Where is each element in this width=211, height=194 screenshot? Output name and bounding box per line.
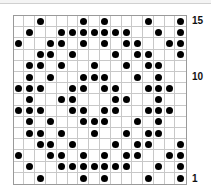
grid-cell-r15-c8[interactable] — [89, 16, 100, 27]
grid-cell-r1-c10[interactable] — [111, 173, 122, 184]
grid-cell-r14-c15[interactable] — [165, 27, 176, 38]
grid-cell-r14-c13[interactable] — [143, 27, 154, 38]
grid-cell-r6-c14[interactable] — [154, 117, 165, 128]
grid-cell-r14-c6[interactable] — [68, 27, 79, 38]
grid-cell-r8-c2[interactable] — [24, 94, 35, 105]
grid-cell-r13-c3[interactable] — [35, 38, 46, 49]
grid-cell-r5-c12[interactable] — [132, 128, 143, 139]
grid-cell-r2-c14[interactable] — [154, 162, 165, 173]
grid-cell-r2-c12[interactable] — [132, 162, 143, 173]
grid-cell-r13-c12[interactable] — [132, 38, 143, 49]
grid-cell-r9-c16[interactable] — [175, 83, 186, 94]
grid-cell-r1-c14[interactable] — [154, 173, 165, 184]
grid-cell-r1-c5[interactable] — [57, 173, 68, 184]
grid-cell-r13-c5[interactable] — [57, 38, 68, 49]
grid-cell-r8-c15[interactable] — [165, 94, 176, 105]
grid-cell-r10-c9[interactable] — [100, 72, 111, 83]
grid-cell-r11-c9[interactable] — [100, 61, 111, 72]
grid-cell-r5-c5[interactable] — [57, 128, 68, 139]
grid-cell-r4-c13[interactable] — [143, 139, 154, 150]
grid-cell-r9-c6[interactable] — [68, 83, 79, 94]
grid-cell-r10-c6[interactable] — [68, 72, 79, 83]
grid-cell-r7-c14[interactable] — [154, 106, 165, 117]
grid-cell-r1-c4[interactable] — [46, 173, 57, 184]
grid-cell-r9-c7[interactable] — [78, 83, 89, 94]
grid-cell-r5-c1[interactable] — [14, 128, 25, 139]
grid-cell-r13-c1[interactable] — [14, 38, 25, 49]
grid-cell-r10-c14[interactable] — [154, 72, 165, 83]
grid-cell-r1-c1[interactable] — [14, 173, 25, 184]
grid-cell-r11-c4[interactable] — [46, 61, 57, 72]
grid-cell-r6-c10[interactable] — [111, 117, 122, 128]
grid-cell-r3-c7[interactable] — [78, 150, 89, 161]
grid-cell-r15-c1[interactable] — [14, 16, 25, 27]
grid-cell-r6-c6[interactable] — [68, 117, 79, 128]
grid-cell-r7-c10[interactable] — [111, 106, 122, 117]
grid-cell-r13-c11[interactable] — [122, 38, 133, 49]
grid-cell-r2-c7[interactable] — [78, 162, 89, 173]
grid-cell-r4-c2[interactable] — [24, 139, 35, 150]
grid-cell-r2-c16[interactable] — [175, 162, 186, 173]
grid-cell-r14-c7[interactable] — [78, 27, 89, 38]
grid-cell-r10-c13[interactable] — [143, 72, 154, 83]
grid-cell-r15-c2[interactable] — [24, 16, 35, 27]
grid-cell-r8-c10[interactable] — [111, 94, 122, 105]
grid-cell-r3-c2[interactable] — [24, 150, 35, 161]
grid-cell-r8-c4[interactable] — [46, 94, 57, 105]
grid-cell-r15-c3[interactable] — [35, 16, 46, 27]
grid-cell-r15-c10[interactable] — [111, 16, 122, 27]
grid-cell-r13-c14[interactable] — [154, 38, 165, 49]
grid-cell-r9-c4[interactable] — [46, 83, 57, 94]
grid-cell-r15-c7[interactable] — [78, 16, 89, 27]
grid-cell-r15-c5[interactable] — [57, 16, 68, 27]
grid-cell-r13-c15[interactable] — [165, 38, 176, 49]
grid-cell-r7-c1[interactable] — [14, 106, 25, 117]
grid-cell-r7-c8[interactable] — [89, 106, 100, 117]
grid-cell-r12-c7[interactable] — [78, 50, 89, 61]
grid-cell-r15-c15[interactable] — [165, 16, 176, 27]
grid-cell-r14-c4[interactable] — [46, 27, 57, 38]
grid-cell-r9-c8[interactable] — [89, 83, 100, 94]
grid-cell-r9-c12[interactable] — [132, 83, 143, 94]
grid-cell-r4-c11[interactable] — [122, 139, 133, 150]
grid-cell-r12-c12[interactable] — [132, 50, 143, 61]
grid-cell-r14-c2[interactable] — [24, 27, 35, 38]
grid-cell-r13-c6[interactable] — [68, 38, 79, 49]
grid-cell-r14-c9[interactable] — [100, 27, 111, 38]
grid-cell-r8-c16[interactable] — [175, 94, 186, 105]
grid-cell-r15-c9[interactable] — [100, 16, 111, 27]
grid-cell-r12-c13[interactable] — [143, 50, 154, 61]
grid-cell-r3-c12[interactable] — [132, 150, 143, 161]
grid-cell-r11-c15[interactable] — [165, 61, 176, 72]
grid-cell-r6-c15[interactable] — [165, 117, 176, 128]
grid-cell-r6-c13[interactable] — [143, 117, 154, 128]
grid-cell-r6-c12[interactable] — [132, 117, 143, 128]
grid-cell-r2-c4[interactable] — [46, 162, 57, 173]
grid-cell-r8-c5[interactable] — [57, 94, 68, 105]
grid-cell-r6-c1[interactable] — [14, 117, 25, 128]
grid-cell-r15-c14[interactable] — [154, 16, 165, 27]
grid-cell-r11-c10[interactable] — [111, 61, 122, 72]
grid-cell-r6-c5[interactable] — [57, 117, 68, 128]
grid-cell-r2-c13[interactable] — [143, 162, 154, 173]
grid-cell-r10-c4[interactable] — [46, 72, 57, 83]
grid-cell-r14-c16[interactable] — [175, 27, 186, 38]
grid-cell-r4-c16[interactable] — [175, 139, 186, 150]
grid-cell-r10-c12[interactable] — [132, 72, 143, 83]
grid-cell-r13-c7[interactable] — [78, 38, 89, 49]
grid-cell-r11-c5[interactable] — [57, 61, 68, 72]
grid-cell-r9-c5[interactable] — [57, 83, 68, 94]
grid-cell-r11-c1[interactable] — [14, 61, 25, 72]
grid-cell-r12-c5[interactable] — [57, 50, 68, 61]
grid-cell-r7-c11[interactable] — [122, 106, 133, 117]
grid-cell-r5-c14[interactable] — [154, 128, 165, 139]
grid-cell-r3-c1[interactable] — [14, 150, 25, 161]
grid-cell-r4-c8[interactable] — [89, 139, 100, 150]
grid-cell-r13-c16[interactable] — [175, 38, 186, 49]
grid-cell-r12-c3[interactable] — [35, 50, 46, 61]
grid-cell-r1-c3[interactable] — [35, 173, 46, 184]
grid-cell-r8-c1[interactable] — [14, 94, 25, 105]
grid-cell-r11-c7[interactable] — [78, 61, 89, 72]
grid-cell-r8-c8[interactable] — [89, 94, 100, 105]
grid-cell-r7-c2[interactable] — [24, 106, 35, 117]
